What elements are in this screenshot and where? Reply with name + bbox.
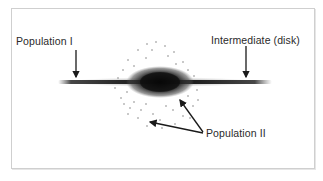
label-population-one: Population I (16, 35, 73, 47)
galaxy-diagram (0, 0, 323, 181)
central-bulge (126, 66, 194, 98)
label-intermediate-disk: Intermediate (disk) (211, 34, 300, 46)
label-population-two: Population II (206, 127, 266, 139)
arrow-population-two-halo (150, 122, 203, 133)
